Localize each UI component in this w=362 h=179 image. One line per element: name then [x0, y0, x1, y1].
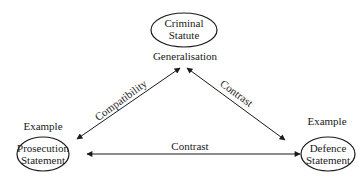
node-top-text: Criminal Statute: [151, 17, 217, 41]
edge-label-contrast-horizontal: Contrast: [160, 140, 220, 152]
node-top-line2: Statute: [151, 29, 217, 41]
node-right-text: Defence Statement: [298, 142, 358, 166]
node-right-line1: Defence: [298, 142, 358, 154]
edge-contrast-diagonal: [187, 68, 285, 140]
label-example-left: Example: [18, 120, 68, 132]
label-example-right: Example: [302, 115, 352, 127]
node-left-line1: Prosecution: [13, 142, 73, 154]
edge-compatibility: [77, 68, 180, 139]
node-right-line2: Statement: [298, 154, 358, 166]
label-generalisation: Generalisation: [148, 50, 222, 62]
node-left-text: Prosecution Statement: [13, 142, 73, 166]
node-left-line2: Statement: [13, 154, 73, 166]
node-top-line1: Criminal: [151, 17, 217, 29]
